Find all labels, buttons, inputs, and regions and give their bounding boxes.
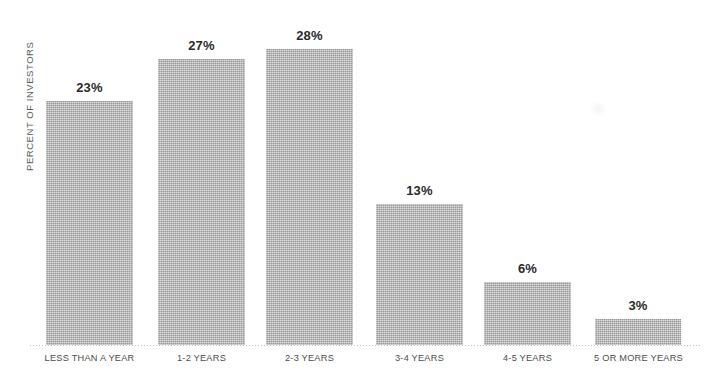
bar-label-5-or-more-years: 5 OR MORE YEARS: [586, 352, 690, 363]
x-axis-baseline: [30, 345, 702, 346]
bar-label-2-3-years: 2-3 YEARS: [262, 352, 357, 363]
bar-value-3-4-years: 13%: [376, 183, 463, 198]
bar-1-2-years: [158, 59, 245, 345]
bar-value-4-5-years: 6%: [484, 261, 571, 276]
bar-label-1-2-years: 1-2 YEARS: [154, 352, 249, 363]
bar-value-less-than-a-year: 23%: [46, 80, 133, 95]
bar-value-2-3-years: 28%: [266, 28, 353, 43]
plot-area: 23% LESS THAN A YEAR 27% 1-2 YEARS 28% 2…: [0, 0, 714, 389]
bar-label-4-5-years: 4-5 YEARS: [480, 352, 575, 363]
bar-label-3-4-years: 3-4 YEARS: [372, 352, 467, 363]
bar-label-less-than-a-year: LESS THAN A YEAR: [35, 352, 143, 363]
bar-5-or-more-years: [595, 319, 681, 345]
bar-chart: PERCENT OF INVESTORS 23% LESS THAN A YEA…: [0, 0, 714, 389]
scan-artifact: [589, 101, 607, 117]
bar-4-5-years: [484, 282, 571, 345]
bar-value-1-2-years: 27%: [158, 38, 245, 53]
bar-value-5-or-more-years: 3%: [595, 298, 681, 313]
bar-3-4-years: [376, 204, 463, 345]
bar-2-3-years: [266, 49, 353, 345]
bar-less-than-a-year: [46, 101, 133, 345]
